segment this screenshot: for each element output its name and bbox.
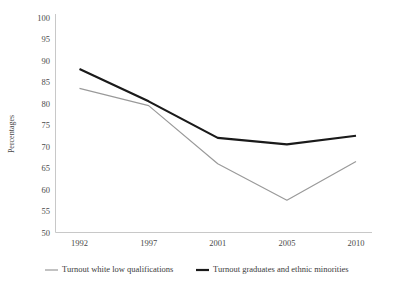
y-tick-label: 75 — [42, 120, 51, 130]
x-tick-label: 2001 — [209, 238, 226, 248]
series-line — [80, 88, 357, 200]
y-tick-label: 50 — [42, 228, 51, 238]
legend-label: Turnout white low qualifications — [62, 264, 173, 274]
y-tick-label: 100 — [37, 13, 50, 23]
y-tick-label: 95 — [42, 34, 51, 44]
x-tick-label: 1992 — [71, 238, 88, 248]
y-tick-label: 80 — [42, 99, 51, 109]
x-tick-label: 1997 — [140, 238, 157, 248]
chart-container: Percentages 50556065707580859095100 1992… — [0, 0, 401, 290]
y-tick-label: 60 — [42, 185, 51, 195]
chart-legend: Turnout white low qualificationsTurnout … — [45, 264, 349, 274]
y-tick-label: 55 — [42, 206, 51, 216]
series-line — [80, 69, 357, 144]
y-axis-title: Percentages — [7, 115, 16, 153]
y-tick-label: 70 — [42, 142, 51, 152]
x-tick-label: 2005 — [278, 238, 295, 248]
y-tick-labels: 50556065707580859095100 — [37, 13, 50, 238]
line-chart: Percentages 50556065707580859095100 1992… — [0, 0, 401, 290]
legend-label: Turnout graduates and ethnic minorities — [213, 264, 349, 274]
x-tick-label: 2010 — [348, 238, 365, 248]
y-tick-label: 90 — [42, 56, 51, 66]
y-tick-label: 65 — [42, 163, 51, 173]
y-tick-label: 85 — [42, 77, 51, 87]
series-group — [80, 69, 357, 200]
x-tick-labels: 19921997200120052010 — [71, 238, 365, 248]
